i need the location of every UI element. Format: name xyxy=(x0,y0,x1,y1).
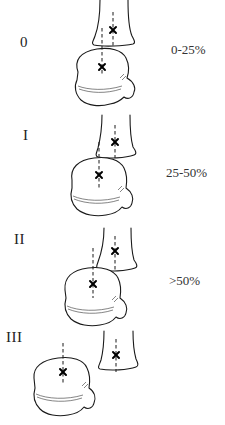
stage-3-illustration xyxy=(34,331,138,416)
lower-bone-stage-0 xyxy=(75,48,134,105)
upper-bone-stage-3 xyxy=(98,331,137,370)
lower-bone-stage-2 xyxy=(65,267,127,325)
stage-2-illustration xyxy=(65,228,137,326)
upper-bone-stage-1 xyxy=(96,115,136,158)
stage-0-illustration xyxy=(75,0,134,106)
stage-1-illustration xyxy=(71,115,136,216)
displacement-grading-diagram: 0 I II III 0-25% 25-50% >50% xyxy=(0,0,225,425)
bone-illustrations xyxy=(0,0,225,425)
lower-bone-stage-1 xyxy=(71,157,133,215)
